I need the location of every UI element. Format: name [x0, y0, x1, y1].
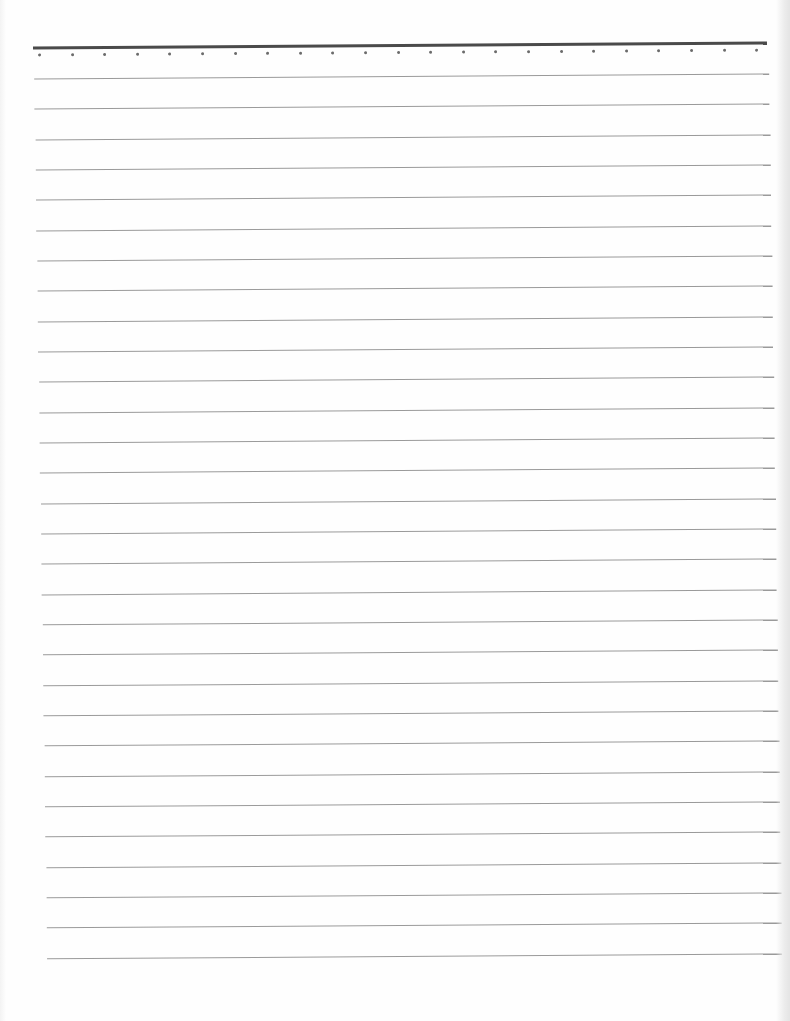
ruled-line	[35, 134, 770, 140]
ruled-line	[35, 104, 770, 110]
ruled-line	[45, 771, 780, 777]
ruled-line	[45, 832, 780, 838]
right-edge-shadow	[776, 0, 790, 1021]
ruled-line	[40, 468, 775, 474]
ruled-line	[43, 680, 778, 686]
ruled-line	[40, 437, 775, 443]
ruled-line	[44, 710, 779, 716]
ruled-line	[47, 923, 782, 929]
ruled-line	[37, 255, 772, 261]
ruled-line	[41, 528, 776, 534]
ruled-line	[36, 195, 771, 201]
ruled-line	[39, 407, 774, 413]
ruled-line	[39, 377, 774, 383]
ruled-sheet	[0, 0, 790, 1021]
ruled-line	[41, 559, 776, 565]
ruled-lines	[0, 0, 790, 1021]
lined-paper-page	[0, 0, 790, 1021]
ruled-line	[46, 892, 781, 898]
ruled-line	[47, 953, 782, 959]
ruled-line	[41, 498, 776, 504]
ruled-line	[45, 801, 780, 807]
ruled-line	[42, 589, 777, 595]
ruled-line	[42, 619, 777, 625]
ruled-line	[38, 346, 773, 352]
ruled-line	[46, 862, 781, 868]
ruled-line	[38, 316, 773, 322]
ruled-line	[37, 286, 772, 292]
ruled-line	[36, 165, 771, 171]
ruled-line	[36, 225, 771, 231]
ruled-line	[44, 741, 779, 747]
ruled-line	[43, 650, 778, 656]
ruled-line	[34, 74, 769, 80]
